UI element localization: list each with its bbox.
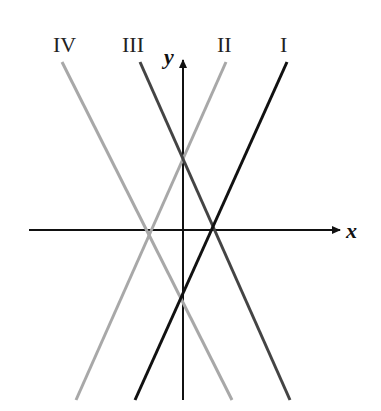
line-diagram: IV III II I y x bbox=[0, 0, 381, 411]
label-i: I bbox=[280, 32, 287, 57]
label-iii: III bbox=[122, 32, 144, 57]
x-axis-label: x bbox=[345, 218, 357, 243]
y-axis-label: y bbox=[161, 44, 174, 69]
label-ii: II bbox=[217, 32, 232, 57]
label-iv: IV bbox=[53, 32, 76, 57]
